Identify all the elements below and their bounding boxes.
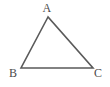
triangle-figure: A B C — [0, 0, 110, 87]
triangle-outline — [21, 17, 93, 68]
vertex-label-a: A — [43, 2, 52, 14]
vertex-label-c: C — [94, 67, 102, 79]
vertex-label-b: B — [9, 67, 17, 79]
